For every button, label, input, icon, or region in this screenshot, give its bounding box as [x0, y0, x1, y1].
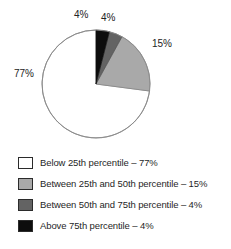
legend-swatch-below-25th	[18, 157, 33, 169]
legend-label-above-75th: Above 75th percentile – 4%	[40, 220, 154, 231]
legend-swatch-above-75th	[18, 220, 33, 232]
legend-item-above-75th[interactable]: Above 75th percentile – 4%	[18, 215, 228, 236]
legend-label-between-25th-50th: Between 25th and 50th percentile – 15%	[40, 178, 207, 189]
pie-chart-svg	[0, 0, 231, 150]
pie-label-below-25th: 77%	[14, 68, 34, 79]
pie-label-above-75th: 4%	[74, 9, 88, 20]
legend-label-between-50th-75th: Between 50th and 75th percentile – 4%	[40, 199, 202, 210]
pie-label-between-25th-50th: 15%	[152, 38, 172, 49]
pie-chart-figure: 4% 4% 15% 77% Below 25th percentile – 77…	[0, 0, 231, 249]
chart-legend: Below 25th percentile – 77% Between 25th…	[18, 152, 228, 236]
legend-label-below-25th: Below 25th percentile – 77%	[40, 157, 158, 168]
legend-swatch-between-25th-50th	[18, 178, 33, 190]
pie-label-between-50th-75th: 4%	[101, 12, 115, 23]
legend-item-below-25th[interactable]: Below 25th percentile – 77%	[18, 152, 228, 173]
pie-chart-plot-area: 4% 4% 15% 77%	[0, 0, 231, 150]
legend-item-between-50th-75th[interactable]: Between 50th and 75th percentile – 4%	[18, 194, 228, 215]
legend-swatch-between-50th-75th	[18, 199, 33, 211]
legend-item-between-25th-50th[interactable]: Between 25th and 50th percentile – 15%	[18, 173, 228, 194]
